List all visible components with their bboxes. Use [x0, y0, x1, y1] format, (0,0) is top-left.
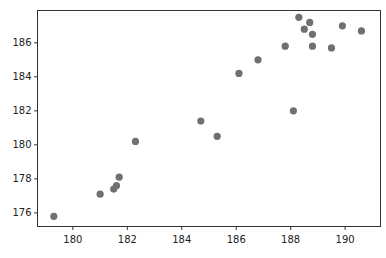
data-point: [50, 213, 57, 220]
data-point: [214, 133, 221, 140]
plot-area: [50, 14, 365, 220]
x-tick-label: 188: [281, 234, 300, 245]
data-point: [132, 138, 139, 145]
y-axis: 176178180182184186: [12, 37, 37, 218]
data-point: [339, 22, 346, 29]
data-point: [306, 19, 313, 26]
x-tick-label: 190: [336, 234, 355, 245]
axes-frame: [38, 11, 381, 227]
x-tick-label: 186: [227, 234, 246, 245]
y-tick-label: 176: [12, 207, 31, 218]
data-point: [97, 191, 104, 198]
y-tick-label: 186: [12, 37, 31, 48]
y-tick-label: 178: [12, 173, 31, 184]
data-point: [358, 27, 365, 34]
y-tick-label: 184: [12, 71, 31, 82]
y-tick-label: 182: [12, 105, 31, 116]
x-axis: 180182184186188190: [63, 227, 354, 245]
data-point: [113, 182, 120, 189]
data-point: [254, 56, 261, 63]
scatter-chart: 180182184186188190 176178180182184186: [0, 0, 386, 258]
x-tick-label: 180: [63, 234, 82, 245]
data-point: [235, 70, 242, 77]
data-point: [301, 26, 308, 33]
data-point: [328, 44, 335, 51]
data-point: [309, 31, 316, 38]
x-tick-label: 184: [172, 234, 191, 245]
y-tick-label: 180: [12, 139, 31, 150]
data-point: [197, 117, 204, 124]
data-point: [295, 14, 302, 21]
x-tick-label: 182: [118, 234, 137, 245]
data-point: [309, 43, 316, 50]
data-point: [116, 174, 123, 181]
data-point: [282, 43, 289, 50]
data-point: [290, 107, 297, 114]
